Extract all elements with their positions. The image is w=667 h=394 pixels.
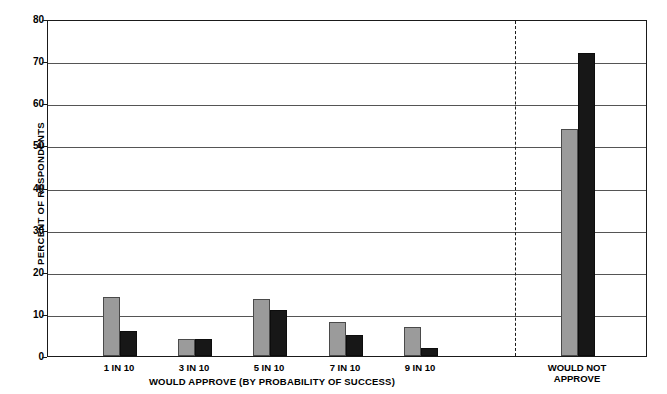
gridline-30 xyxy=(48,232,646,233)
y-tick-label-20: 20 xyxy=(14,268,44,278)
x-tick-label-5: WOULD NOT APPROVE xyxy=(517,362,637,384)
x-axis-title: WOULD APPROVE (BY PROBABILITY OF SUCCESS… xyxy=(47,376,497,387)
plot-area xyxy=(47,20,647,357)
gridline-70 xyxy=(48,63,646,64)
bar-black-3 xyxy=(346,335,363,356)
y-tick-label-10: 10 xyxy=(14,310,44,320)
bar-gray-0 xyxy=(103,297,120,356)
bar-black-0 xyxy=(120,331,137,356)
y-tick-label-0: 0 xyxy=(14,352,44,362)
y-tick-label-30: 30 xyxy=(14,226,44,236)
bar-gray-5 xyxy=(561,129,578,356)
gridline-10 xyxy=(48,316,646,317)
y-tick-label-70: 70 xyxy=(14,57,44,67)
bar-black-2 xyxy=(270,310,287,356)
y-tick-label-50: 50 xyxy=(14,141,44,151)
bar-gray-4 xyxy=(404,327,421,356)
bar-black-5 xyxy=(578,53,595,356)
y-tick-label-60: 60 xyxy=(14,99,44,109)
bar-black-1 xyxy=(195,339,212,356)
y-tick-mark-0 xyxy=(42,357,47,358)
gridline-60 xyxy=(48,105,646,106)
group-divider-dashed-line xyxy=(515,21,516,356)
y-tick-label-80: 80 xyxy=(14,15,44,25)
gridline-50 xyxy=(48,147,646,148)
bar-gray-1 xyxy=(178,339,195,356)
bar-gray-3 xyxy=(329,322,346,356)
gridline-40 xyxy=(48,190,646,191)
x-tick-label-4: 9 IN 10 xyxy=(360,362,480,373)
y-tick-label-40: 40 xyxy=(14,184,44,194)
bar-black-4 xyxy=(421,348,438,356)
gridline-20 xyxy=(48,274,646,275)
bar-chart-figure: PERCENT OF RESPONDENTS 01020304050607080… xyxy=(0,0,667,394)
bar-gray-2 xyxy=(253,299,270,356)
